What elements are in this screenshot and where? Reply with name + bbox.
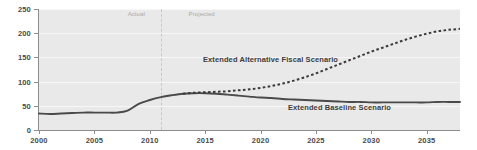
- line-extended-alternative-fiscal-scenario: [183, 29, 460, 94]
- line-extended-baseline-scenario: [39, 93, 460, 114]
- series-lines: [0, 0, 477, 150]
- chart-container: 050100150200250 200020052010201520202025…: [0, 0, 477, 150]
